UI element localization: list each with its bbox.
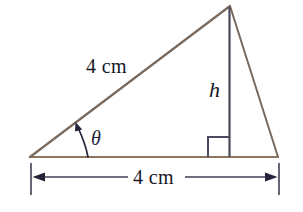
- base-length-label: 4 cm: [133, 167, 174, 187]
- right-angle-marker: [208, 137, 229, 157]
- angle-arrow-arc: [78, 127, 89, 158]
- angle-arrow-head: [75, 122, 82, 132]
- diagram-canvas: 4 cm h θ 4 cm: [0, 0, 303, 212]
- triangle-right-side-line: [230, 6, 278, 157]
- triangle-hypotenuse-line: [30, 6, 230, 157]
- hypotenuse-label: 4 cm: [86, 56, 127, 76]
- dimension-arrowhead-right: [265, 173, 278, 182]
- height-label: h: [209, 79, 220, 101]
- dimension-arrowhead-left: [33, 173, 46, 182]
- angle-theta-label: θ: [91, 128, 101, 148]
